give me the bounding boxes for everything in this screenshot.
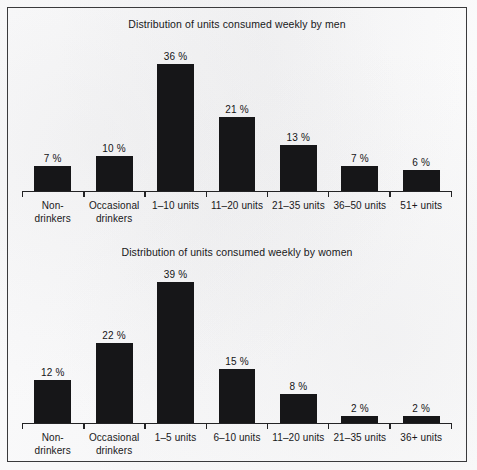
category-label: 36–50 units [329, 200, 390, 225]
chart-men-category-labels: Non- drinkersOccasional drinkers1–10 uni… [22, 200, 452, 225]
bar-value-label: 13 % [287, 132, 311, 143]
axis-tick [267, 192, 268, 197]
bar [157, 282, 194, 423]
chart-men-title: Distribution of units consumed weekly by… [8, 18, 466, 30]
axis-tick [144, 192, 145, 197]
bar [34, 166, 71, 191]
bar [403, 170, 440, 191]
bar-value-label: 10 % [102, 143, 126, 154]
category-label: 11–20 units [206, 200, 267, 225]
axis-tick [389, 192, 390, 197]
bar-value-label: 7 % [351, 153, 369, 164]
bar-value-label: 39 % [164, 269, 188, 280]
bar [96, 156, 133, 191]
bar-slot: 7 % [22, 34, 83, 191]
axis-tick [206, 424, 207, 429]
bar-value-label: 2 % [351, 403, 369, 414]
bar-value-label: 36 % [164, 51, 188, 62]
chart-women-category-labels: Non- drinkersOccasional drinkers1–5 unit… [22, 432, 452, 457]
chart-women-title: Distribution of units consumed weekly by… [8, 246, 466, 258]
category-label: 51+ units [391, 200, 452, 225]
category-label: Non- drinkers [22, 200, 83, 225]
bar-value-label: 8 % [289, 381, 307, 392]
chart-men-axis-ticks [22, 192, 452, 197]
category-label: 21–35 units [268, 200, 329, 225]
category-label: 21–35 units [329, 432, 390, 457]
bar [280, 394, 317, 423]
bar-value-label: 7 % [44, 153, 62, 164]
axis-tick [451, 424, 452, 429]
axis-tick [83, 192, 84, 197]
category-label: Occasional drinkers [83, 200, 144, 225]
bar [341, 416, 378, 423]
bar-slot: 39 % [145, 262, 206, 423]
bar-slot: 15 % [206, 262, 267, 423]
category-label: 1–5 units [145, 432, 206, 457]
bar [96, 343, 133, 423]
category-label: 11–20 units [268, 432, 329, 457]
bar [280, 145, 317, 191]
axis-tick [328, 424, 329, 429]
category-label: Occasional drinkers [83, 432, 144, 457]
bar-value-label: 15 % [225, 356, 249, 367]
bar-slot: 10 % [83, 34, 144, 191]
bar-value-label: 21 % [225, 104, 249, 115]
bar-slot: 13 % [268, 34, 329, 191]
figure-page: Distribution of units consumed weekly by… [0, 0, 477, 470]
axis-tick [206, 192, 207, 197]
bar [157, 64, 194, 191]
bar-value-label: 22 % [102, 330, 126, 341]
axis-tick [267, 424, 268, 429]
category-label: 36+ units [391, 432, 452, 457]
axis-tick [22, 192, 23, 197]
axis-tick [22, 424, 23, 429]
axis-tick [83, 424, 84, 429]
bar [219, 369, 256, 423]
bar-slot: 21 % [206, 34, 267, 191]
chart-women-plot-area: 12 %22 %39 %15 %8 %2 %2 % [22, 262, 452, 423]
category-label: Non- drinkers [22, 432, 83, 457]
bar [219, 117, 256, 191]
bar-value-label: 6 % [412, 157, 430, 168]
chart-men: Distribution of units consumed weekly by… [8, 14, 466, 232]
bar-slot: 2 % [391, 262, 452, 423]
category-label: 6–10 units [206, 432, 267, 457]
bar-slot: 36 % [145, 34, 206, 191]
axis-tick [451, 192, 452, 197]
figure-border: Distribution of units consumed weekly by… [7, 7, 467, 462]
bar-slot: 22 % [83, 262, 144, 423]
bar-slot: 2 % [329, 262, 390, 423]
chart-women: Distribution of units consumed weekly by… [8, 242, 466, 458]
bar [341, 166, 378, 191]
chart-women-axis-ticks [22, 424, 452, 429]
axis-tick [328, 192, 329, 197]
bar [403, 416, 440, 423]
bar-value-label: 12 % [41, 367, 65, 378]
chart-men-plot-area: 7 %10 %36 %21 %13 %7 %6 % [22, 34, 452, 191]
bar-value-label: 2 % [412, 403, 430, 414]
bar-slot: 12 % [22, 262, 83, 423]
bar [34, 380, 71, 424]
category-label: 1–10 units [145, 200, 206, 225]
bar-slot: 6 % [391, 34, 452, 191]
bar-slot: 8 % [268, 262, 329, 423]
axis-tick [144, 424, 145, 429]
axis-tick [389, 424, 390, 429]
bar-slot: 7 % [329, 34, 390, 191]
